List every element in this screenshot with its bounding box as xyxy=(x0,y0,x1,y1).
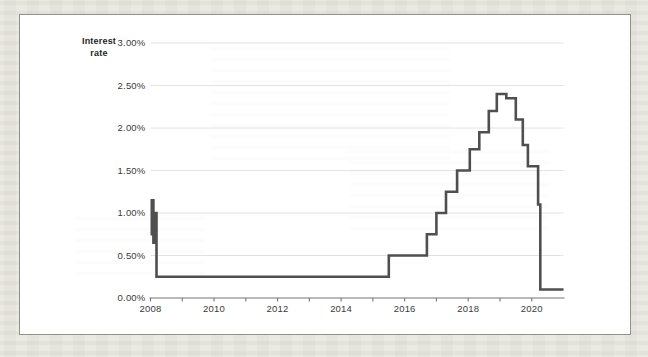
x-tick-label-2010: 2010 xyxy=(203,303,225,314)
x-tick-label-2012: 2012 xyxy=(267,303,289,314)
x-tick-label-2018: 2018 xyxy=(457,303,479,314)
x-tick-label-2016: 2016 xyxy=(394,303,416,314)
y-tick-label-3.00%: 3.00% xyxy=(118,37,146,48)
x-tick-label-2020: 2020 xyxy=(521,303,543,314)
y-tick-label-2.50%: 2.50% xyxy=(118,80,146,91)
book-page: Interest rate 0.00%0.50%1.00%1.50%2.00%2… xyxy=(0,0,648,357)
chart-panel: Interest rate 0.00%0.50%1.00%1.50%2.00%2… xyxy=(19,14,631,335)
y-tick-label-1.50%: 1.50% xyxy=(118,165,146,176)
y-tick-label-0.50%: 0.50% xyxy=(118,250,146,261)
x-tick-label-2008: 2008 xyxy=(140,303,162,314)
y-tick-label-2.00%: 2.00% xyxy=(118,122,146,133)
x-tick-label-2014: 2014 xyxy=(330,303,352,314)
series-line-interest-rate xyxy=(151,94,564,290)
y-tick-label-1.00%: 1.00% xyxy=(118,207,146,218)
interest-rate-step-chart: 0.00%0.50%1.00%1.50%2.00%2.50%3.00%20082… xyxy=(20,15,629,333)
